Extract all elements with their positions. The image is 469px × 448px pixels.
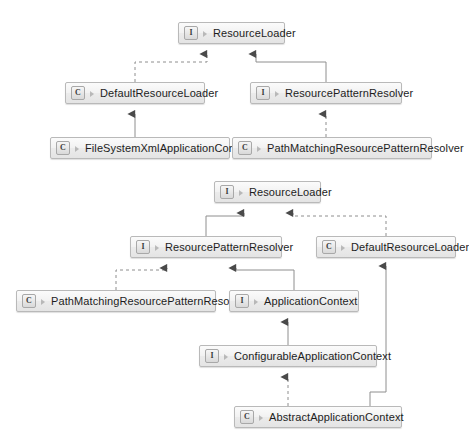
class-badge-icon: C: [240, 410, 254, 424]
uml-node-d1-resourceloader[interactable]: IResourceLoader: [178, 22, 285, 44]
uml-node-label: ResourcePatternResolver: [165, 242, 293, 253]
uml-node-label: ConfigurableApplicationContext: [234, 351, 391, 362]
edge-d2-defaultresourceloader-to-resourceloader: [293, 213, 386, 236]
edge-d2-resourcepattern-to-resourceloader: [206, 213, 244, 236]
uml-node-label: AbstractApplicationContext: [269, 412, 404, 423]
interface-badge-icon: I: [205, 349, 219, 363]
chevron-right-icon: [74, 145, 81, 152]
uml-node-d2-resourceloader[interactable]: IResourceLoader: [214, 181, 321, 203]
class-badge-icon: C: [322, 240, 336, 254]
chevron-right-icon: [258, 414, 265, 421]
interface-badge-icon: I: [136, 240, 150, 254]
edge-d2-abstract-to-defaultresourceloader: [370, 266, 386, 406]
class-badge-icon: C: [56, 141, 70, 155]
interface-badge-icon: I: [235, 294, 249, 308]
chevron-right-icon: [340, 244, 347, 251]
uml-node-label: PathMatchingResourcePatternResolver: [51, 296, 248, 307]
class-badge-icon: C: [71, 86, 85, 100]
uml-node-d1-filesystemxml[interactable]: CFileSystemXmlApplicationContext: [50, 137, 230, 159]
uml-node-label: DefaultResourceLoader: [351, 242, 469, 253]
uml-node-label: FileSystemXmlApplicationContext: [85, 143, 253, 154]
chevron-right-icon: [274, 90, 281, 97]
class-badge-icon: C: [238, 141, 252, 155]
chevron-right-icon: [89, 90, 96, 97]
uml-node-d2-pathmatching[interactable]: CPathMatchingResourcePatternResolver: [16, 290, 216, 312]
uml-node-label: ResourceLoader: [249, 187, 332, 198]
uml-node-d1-resourcepattern[interactable]: IResourcePatternResolver: [250, 82, 402, 104]
class-badge-icon: C: [22, 294, 36, 308]
chevron-right-icon: [238, 189, 245, 196]
interface-badge-icon: I: [184, 26, 198, 40]
uml-node-label: DefaultResourceLoader: [100, 88, 218, 99]
uml-node-d2-configurable[interactable]: IConfigurableApplicationContext: [199, 345, 377, 367]
chevron-right-icon: [223, 353, 230, 360]
chevron-right-icon: [256, 145, 263, 152]
chevron-right-icon: [253, 298, 260, 305]
interface-badge-icon: I: [256, 86, 270, 100]
uml-node-label: ResourceLoader: [213, 28, 296, 39]
uml-node-d2-abstract[interactable]: CAbstractApplicationContext: [234, 406, 402, 428]
uml-node-d1-defaultresourceloader[interactable]: CDefaultResourceLoader: [65, 82, 205, 104]
chevron-right-icon: [202, 30, 209, 37]
uml-node-d2-defaultresourceloader[interactable]: CDefaultResourceLoader: [316, 236, 456, 258]
uml-node-label: ResourcePatternResolver: [285, 88, 413, 99]
uml-node-d1-pathmatching[interactable]: CPathMatchingResourcePatternResolver: [232, 137, 432, 159]
chevron-right-icon: [40, 298, 47, 305]
edge-d2-pathmatching-to-resourcepattern: [116, 268, 167, 290]
edge-d1-defaultresourceloader-to-resourceloader: [135, 54, 207, 82]
uml-node-label: PathMatchingResourcePatternResolver: [267, 143, 464, 154]
edge-d1-resourcepattern-to-resourceloader: [256, 54, 326, 82]
chevron-right-icon: [154, 244, 161, 251]
edge-d2-applicationcontext-to-resourcepattern: [236, 268, 294, 290]
uml-node-d2-applicationcontext[interactable]: IApplicationContext: [229, 290, 359, 312]
interface-badge-icon: I: [220, 185, 234, 199]
uml-node-label: ApplicationContext: [264, 296, 358, 307]
uml-node-d2-resourcepattern[interactable]: IResourcePatternResolver: [130, 236, 282, 258]
